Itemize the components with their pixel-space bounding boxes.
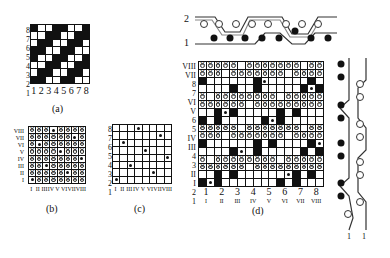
cross-section-right-label-1a: 1: [347, 232, 351, 242]
cross-section-drawings: [0, 0, 390, 258]
cross-section-right-label-1b: 1: [362, 232, 366, 242]
